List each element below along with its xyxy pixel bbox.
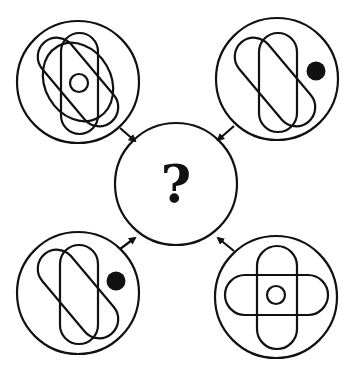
vertical-capsule-shape [60, 245, 98, 344]
diagonal-capsule-shape [30, 242, 126, 346]
arrow-bottom-right-to-center [218, 238, 234, 251]
horizontal-capsule-shape [225, 275, 328, 315]
arrow-bottom-left-to-center [120, 238, 135, 249]
vertical-capsule-shape [259, 33, 297, 132]
diagonal-capsule-shape [227, 30, 323, 134]
puzzle-diagram: ? [0, 0, 354, 379]
panel-frame-circle [17, 232, 139, 354]
filled-dot [107, 272, 126, 291]
arrow-top-left-to-center [120, 128, 135, 141]
panel-frame-circle [17, 21, 139, 143]
panel-frame-circle [215, 236, 337, 358]
panel-bottom-right [215, 236, 337, 358]
question-mark: ? [161, 153, 191, 214]
small-center-circle [267, 286, 285, 304]
panel-top-left [17, 21, 139, 143]
panel-bottom-left [17, 232, 139, 354]
small-center-circle [70, 74, 88, 92]
vertical-capsule-shape [61, 33, 98, 134]
arrow-top-right-to-center [218, 126, 234, 140]
tilted-ellipse-shape [29, 30, 127, 134]
vertical-capsule-shape [257, 246, 297, 349]
filled-dot [307, 62, 326, 81]
